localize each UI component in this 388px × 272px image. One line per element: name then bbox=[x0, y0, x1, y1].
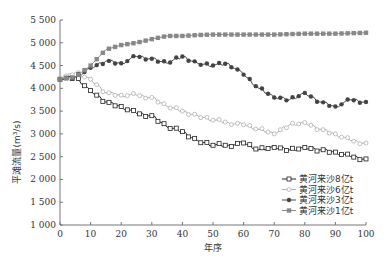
legend-item: 黄河来沙1亿t bbox=[282, 205, 354, 216]
y-tick-label: 5 000 bbox=[30, 38, 56, 48]
x-axis-title: 年序 bbox=[204, 242, 222, 253]
x-tick-label: 90 bbox=[330, 229, 342, 239]
legend: 黄河来沙8亿t黄河来沙6亿t黄河来沙3亿t黄河来沙1亿t bbox=[282, 173, 354, 216]
legend-label: 黄河来沙3亿t bbox=[299, 194, 354, 205]
plot-area bbox=[58, 31, 368, 162]
series-2 bbox=[58, 71, 368, 146]
series-markers bbox=[58, 31, 368, 82]
x-tick-label: 80 bbox=[299, 229, 311, 239]
y-tick-label: 3 500 bbox=[30, 106, 56, 116]
x-tick-label: 50 bbox=[207, 229, 219, 239]
x-tick-label: 60 bbox=[238, 229, 250, 239]
legend-item: 黄河来沙8亿t bbox=[282, 173, 354, 184]
legend-item: 黄河来沙6亿t bbox=[282, 184, 354, 195]
y-tick-label: 2 500 bbox=[30, 152, 56, 162]
series-markers bbox=[58, 71, 368, 146]
x-tick-label: 30 bbox=[146, 229, 158, 239]
x-tick-label: 100 bbox=[357, 229, 374, 239]
y-tick-label: 4 000 bbox=[30, 83, 56, 93]
y-tick-label: 3 000 bbox=[30, 129, 56, 139]
series-4 bbox=[58, 31, 368, 82]
y-tick-label: 1 000 bbox=[30, 220, 56, 230]
x-axis: 0102030405060708090100 bbox=[57, 222, 375, 239]
y-tick-label: 1 500 bbox=[30, 197, 56, 207]
y-tick-label: 5 500 bbox=[30, 15, 56, 25]
y-axis-title: 平滩流量(m³/s) bbox=[11, 120, 22, 183]
legend-label: 黄河来沙8亿t bbox=[299, 173, 354, 184]
y-axis: 1 0001 5002 0002 5003 0003 5004 0004 500… bbox=[30, 15, 63, 230]
x-tick-label: 10 bbox=[85, 229, 97, 239]
legend-label: 黄河来沙1亿t bbox=[299, 205, 354, 216]
series-line bbox=[60, 72, 366, 143]
x-tick-label: 40 bbox=[177, 229, 189, 239]
y-tick-label: 2 000 bbox=[30, 174, 56, 184]
x-tick-label: 70 bbox=[268, 229, 280, 239]
x-tick-label: 0 bbox=[57, 229, 63, 239]
line-chart: 1 0001 5002 0002 5003 0003 5004 0004 500… bbox=[0, 0, 388, 272]
x-tick-label: 20 bbox=[115, 229, 127, 239]
legend-item: 黄河来沙3亿t bbox=[282, 194, 354, 205]
legend-label: 黄河来沙6亿t bbox=[299, 184, 354, 195]
series-line bbox=[60, 33, 366, 79]
y-tick-label: 4 500 bbox=[30, 61, 56, 71]
